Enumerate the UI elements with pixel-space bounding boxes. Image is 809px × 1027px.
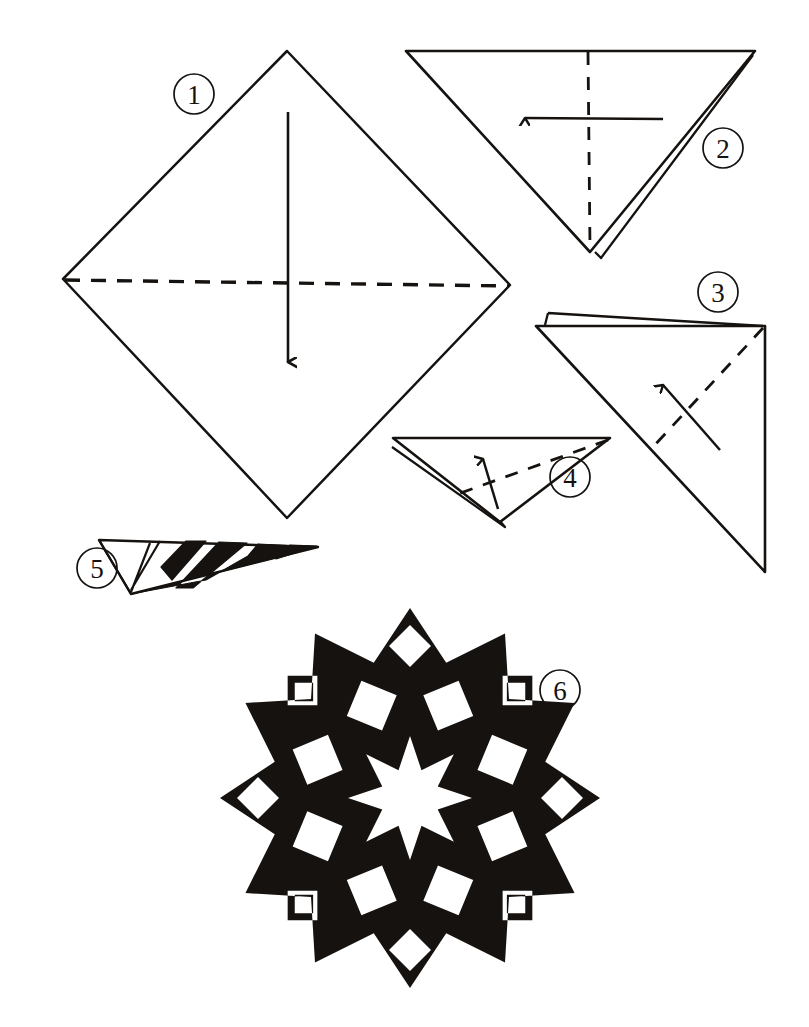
step-4-figure [392, 438, 610, 527]
step-3-number-badge: 3 [698, 272, 738, 312]
step-2-figure [406, 51, 755, 258]
step-5-figure [99, 540, 318, 594]
step-2-number-badge: 2 [703, 128, 743, 168]
step-6-number-badge: 6 [540, 670, 580, 710]
snowflake-instruction-sheet: 1 2 3 [0, 0, 809, 1027]
step-3-fold-line-dashed [653, 328, 763, 447]
step-3-layer-edge [545, 313, 763, 326]
step-1-number: 1 [187, 80, 201, 110]
step-4-number: 4 [563, 463, 577, 493]
step-4-number-badge: 4 [550, 457, 590, 497]
step-6-figure [220, 608, 600, 988]
step-3-figure [536, 313, 765, 572]
step-1-figure [63, 51, 510, 518]
step-2-fold-line-dashed [588, 52, 590, 248]
step-4-layer-edge [392, 447, 505, 527]
step-5-number-badge: 5 [77, 548, 117, 588]
step-5-number: 5 [90, 554, 104, 584]
step-1-number-badge: 1 [174, 74, 214, 114]
step-2-fold-arrow [525, 118, 663, 119]
instruction-diagram-canvas: 1 2 3 [0, 0, 809, 1027]
snowflake-shape [220, 608, 600, 988]
step-6-number: 6 [553, 676, 567, 706]
step-3-number: 3 [711, 278, 725, 308]
step-2-number: 2 [716, 134, 730, 164]
step-3-triangle [536, 326, 765, 572]
step-4-fold-line-dashed [455, 440, 608, 495]
step-5-fold-edges [99, 540, 160, 594]
step-3-fold-arrow [663, 385, 720, 450]
